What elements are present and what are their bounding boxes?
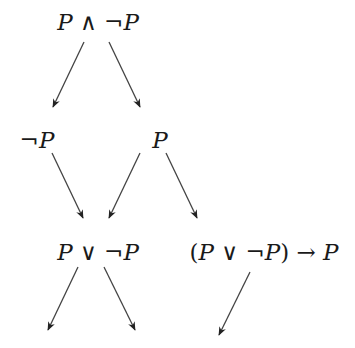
node-label-n3: P (151, 127, 168, 153)
edge-arrow-n4-leaf-left (48, 267, 78, 330)
edge-arrow-n2-n4 (52, 153, 83, 218)
edge-arrow-n5-leaf-impl (219, 272, 250, 335)
edge-arrow-n1-n2 (53, 42, 84, 107)
node-label-n5: (P ∨ ¬P) → P (189, 239, 339, 265)
edge-arrow-n1-n3 (109, 42, 140, 107)
nodes-group: P ∧ ¬P¬PPP ∨ ¬P(P ∨ ¬P) → P (20, 9, 339, 265)
node-label-n4: P ∨ ¬P (56, 239, 139, 265)
edge-arrow-n4-leaf-right (104, 267, 135, 330)
edge-arrow-n3-n5 (166, 153, 197, 218)
logic-tree-diagram: P ∧ ¬P¬PPP ∨ ¬P(P ∨ ¬P) → P (0, 0, 355, 348)
edges-group (48, 42, 250, 335)
node-label-n1: P ∧ ¬P (56, 9, 139, 35)
edge-arrow-n3-n4 (109, 153, 140, 218)
node-label-n2: ¬P (20, 127, 55, 153)
